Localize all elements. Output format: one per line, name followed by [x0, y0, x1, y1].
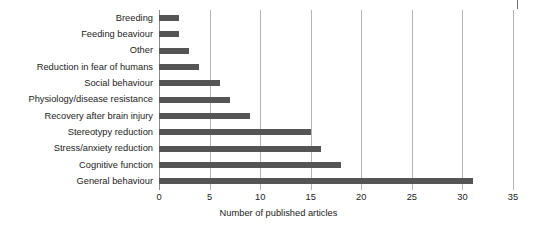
gridline-35 — [513, 10, 514, 190]
category-label: General behaviour — [0, 176, 153, 187]
bar-row — [159, 10, 513, 26]
category-label: Stereotypy reduction — [0, 127, 153, 138]
category-axis-labels: BreedingFeeding beaviourOtherReduction i… — [0, 10, 153, 190]
bar-row — [159, 108, 513, 124]
x-tick-label: 25 — [407, 192, 417, 203]
bar-row — [159, 157, 513, 173]
category-label: Physiology/disease resistance — [0, 94, 153, 105]
x-tick-label: 10 — [255, 192, 265, 203]
top-gridline-nub — [517, 0, 518, 9]
category-label: Reduction in fear of humans — [0, 62, 153, 73]
category-label: Stress/anxiety reduction — [0, 143, 153, 154]
bar-row — [159, 141, 513, 157]
x-tick-label: 15 — [306, 192, 316, 203]
bar-chart-figure: BreedingFeeding beaviourOtherReduction i… — [0, 0, 537, 233]
bar — [159, 80, 220, 86]
bar-row — [159, 26, 513, 42]
category-label: Other — [0, 45, 153, 56]
x-tick-label: 20 — [356, 192, 366, 203]
x-tick-label: 5 — [207, 192, 212, 203]
category-label: Social behaviour — [0, 78, 153, 89]
bar-row — [159, 173, 513, 189]
x-axis-title-text: Number of published articles — [220, 207, 338, 219]
bar-row — [159, 43, 513, 59]
bar — [159, 97, 230, 103]
category-label: Cognitive function — [0, 160, 153, 171]
x-tick-label: 30 — [457, 192, 467, 203]
bar — [159, 48, 189, 54]
bar-series — [159, 10, 513, 190]
bar-row — [159, 92, 513, 108]
x-axis-tick-labels: 05101520253035 — [0, 190, 537, 206]
bar — [159, 31, 179, 37]
category-label: Recovery after brain injury — [0, 111, 153, 122]
bar-row — [159, 59, 513, 75]
plot-area — [159, 10, 513, 190]
bar — [159, 178, 473, 184]
bar — [159, 113, 250, 119]
x-axis-title: Number of published articles — [0, 207, 537, 219]
bar-row — [159, 124, 513, 140]
bar — [159, 15, 179, 21]
bar — [159, 146, 321, 152]
category-label: Breeding — [0, 13, 153, 24]
bar — [159, 129, 311, 135]
category-label: Feeding beaviour — [0, 29, 153, 40]
x-tick-label: 0 — [156, 192, 161, 203]
bar — [159, 64, 199, 70]
bar-row — [159, 75, 513, 91]
x-tick-label: 35 — [508, 192, 518, 203]
bar — [159, 162, 341, 168]
